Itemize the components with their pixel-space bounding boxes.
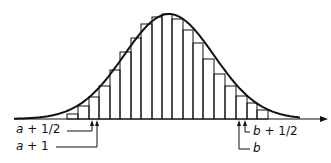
label-b: b [253, 142, 261, 155]
histogram-bar [141, 24, 152, 119]
histogram-bar [247, 103, 257, 119]
histogram-bar [67, 114, 78, 119]
label-a-half: a + 1/2 [16, 123, 60, 136]
histogram-bar [257, 110, 268, 119]
histogram-bar [172, 19, 183, 119]
label-b-half: b + 1/2 [253, 125, 298, 138]
normal-curve [14, 14, 300, 119]
histogram-bar [225, 86, 236, 119]
histogram-bar [99, 86, 110, 119]
histogram-bar [183, 30, 193, 119]
histogram-bar [78, 106, 89, 119]
normal-approximation-diagram [0, 0, 331, 163]
histogram-bars [67, 14, 268, 119]
histogram-bar [193, 43, 203, 119]
histogram-bar [89, 97, 99, 119]
histogram-bar [162, 14, 172, 119]
histogram-bar [110, 70, 120, 119]
label-a-one: a + 1 [16, 140, 49, 153]
boundary-markers [56, 120, 250, 149]
histogram-bar [236, 96, 247, 119]
histogram-bar [120, 52, 131, 119]
histogram-bar [214, 74, 225, 119]
histogram-bar [152, 17, 162, 119]
histogram-bar [203, 59, 214, 119]
histogram-bar [131, 38, 141, 119]
